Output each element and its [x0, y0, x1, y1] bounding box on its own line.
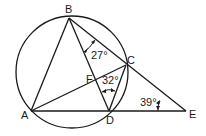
label-A: A — [21, 109, 29, 121]
label-F: F — [86, 73, 93, 85]
label-C: C — [127, 54, 135, 66]
angle-arrow-B1 — [84, 48, 88, 53]
label-E: E — [189, 108, 196, 120]
angle-label-39: 39° — [140, 96, 157, 108]
label-D: D — [106, 114, 114, 126]
segment-AB — [31, 18, 69, 111]
angle-arrow-D2 — [111, 88, 115, 92]
segment-BD — [69, 18, 109, 111]
geometry-diagram: B C A D E F 27° 32° 39° — [0, 0, 206, 136]
angle-label-27: 27° — [91, 49, 108, 61]
angle-arrow-D1 — [102, 89, 106, 93]
label-B: B — [65, 3, 72, 15]
angle-label-32: 32° — [102, 74, 119, 86]
